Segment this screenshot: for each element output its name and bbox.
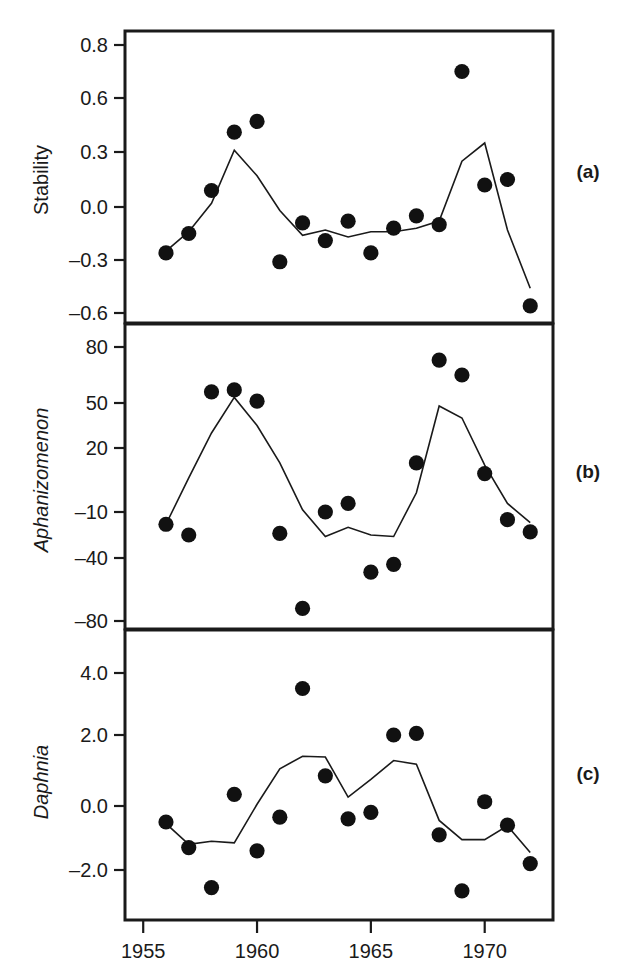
panel-c-y-ticks <box>114 673 125 870</box>
data-point <box>158 517 173 532</box>
data-point <box>409 455 424 470</box>
panel-a-y-ticks <box>114 45 125 313</box>
data-point <box>477 177 492 192</box>
data-point <box>181 226 196 241</box>
data-point <box>477 466 492 481</box>
data-point <box>295 601 310 616</box>
data-point <box>204 880 219 895</box>
y-tick-label-c-2: 0.0 <box>80 795 108 817</box>
data-point <box>432 217 447 232</box>
y-tick-label-b-2: 20 <box>86 437 108 459</box>
y-tick-label-a-4: –0.3 <box>69 249 108 271</box>
panel-a-y-axis-title: Stability <box>30 145 52 215</box>
data-point <box>318 504 333 519</box>
panel-a-frame <box>125 31 553 323</box>
data-point <box>341 214 356 229</box>
panel-b-y-axis-title: Aphanizomenon <box>30 408 52 554</box>
data-point <box>181 527 196 542</box>
x-axis-tick-labels: 1955196019651970 <box>121 940 507 962</box>
data-point <box>227 787 242 802</box>
x-tick-label-2: 1965 <box>349 940 394 962</box>
data-point <box>227 382 242 397</box>
data-point <box>409 208 424 223</box>
data-point <box>272 526 287 541</box>
data-point <box>249 394 264 409</box>
panel-c-y-tick-labels: 4.02.00.0–2.0 <box>69 662 108 881</box>
panel-a: 0.80.60.30.0–0.3–0.6 Stability (a) <box>30 31 600 324</box>
panel-c-y-axis-title: Daphnia <box>30 745 52 820</box>
data-point <box>454 64 469 79</box>
data-point <box>318 233 333 248</box>
data-point <box>500 172 515 187</box>
data-point <box>500 512 515 527</box>
data-point <box>158 245 173 260</box>
data-point <box>158 814 173 829</box>
panel-c-label: (c) <box>576 763 599 784</box>
data-point <box>500 818 515 833</box>
data-point <box>523 856 538 871</box>
y-tick-label-a-3: 0.0 <box>80 196 108 218</box>
y-tick-label-b-1: 50 <box>86 392 108 414</box>
three-panel-timeseries-figure: 0.80.60.30.0–0.3–0.6 Stability (a) 80502… <box>0 0 632 973</box>
y-tick-label-c-0: 4.0 <box>80 662 108 684</box>
panel-c: 4.02.00.0–2.0 Daphnia (c) <box>30 630 600 920</box>
x-tick-label-0: 1955 <box>121 940 166 962</box>
data-point <box>409 726 424 741</box>
data-point <box>272 810 287 825</box>
data-point <box>386 727 401 742</box>
x-tick-label-3: 1970 <box>462 940 507 962</box>
data-point <box>523 298 538 313</box>
y-tick-label-a-0: 0.8 <box>80 34 108 56</box>
data-point <box>454 883 469 898</box>
x-tick-label-1: 1960 <box>235 940 280 962</box>
data-point <box>432 827 447 842</box>
y-tick-label-a-2: 0.3 <box>80 141 108 163</box>
data-point <box>386 221 401 236</box>
x-axis: 1955196019651970 <box>121 920 507 962</box>
data-point <box>341 811 356 826</box>
panel-b-y-tick-labels: 805020–10–40–80 <box>75 336 108 632</box>
data-point <box>363 565 378 580</box>
data-point <box>386 557 401 572</box>
data-point <box>363 805 378 820</box>
data-point <box>523 524 538 539</box>
figure-root: 0.80.60.30.0–0.3–0.6 Stability (a) 80502… <box>0 0 632 973</box>
y-tick-label-c-3: –2.0 <box>69 859 108 881</box>
y-tick-label-a-5: –0.6 <box>69 302 108 324</box>
panel-a-y-tick-labels: 0.80.60.30.0–0.3–0.6 <box>69 34 108 324</box>
y-tick-label-b-5: –80 <box>75 610 108 632</box>
panel-c-frame <box>125 630 553 920</box>
panel-b-y-ticks <box>114 347 125 621</box>
y-tick-label-b-0: 80 <box>86 336 108 358</box>
data-point <box>272 254 287 269</box>
data-point <box>295 215 310 230</box>
data-point <box>204 384 219 399</box>
data-point <box>363 245 378 260</box>
panel-b: 805020–10–40–80 Aphanizomenon (b) <box>30 324 600 632</box>
y-tick-label-b-3: –10 <box>75 501 108 523</box>
y-tick-label-b-4: –40 <box>75 547 108 569</box>
x-axis-ticks <box>143 920 484 933</box>
data-point <box>249 843 264 858</box>
data-point <box>227 125 242 140</box>
y-tick-label-a-1: 0.6 <box>80 87 108 109</box>
data-point <box>249 114 264 129</box>
y-tick-label-c-1: 2.0 <box>80 724 108 746</box>
data-point <box>432 352 447 367</box>
data-point <box>341 496 356 511</box>
data-point <box>295 681 310 696</box>
data-point <box>477 794 492 809</box>
data-point <box>204 183 219 198</box>
data-point <box>318 768 333 783</box>
panel-b-label: (b) <box>576 461 600 482</box>
data-point <box>181 840 196 855</box>
data-point <box>454 367 469 382</box>
panel-a-label: (a) <box>576 161 599 182</box>
